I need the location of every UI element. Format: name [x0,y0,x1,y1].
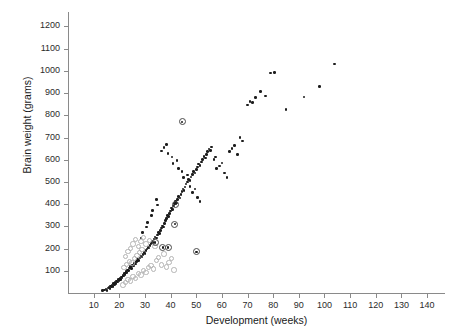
data-point-filled-dot [199,164,202,167]
data-point-filled-dot [172,162,175,165]
data-point-filled-dot [146,221,149,224]
data-point-filled-dot [167,152,170,155]
data-point-filled-dot [168,212,171,215]
data-point-filled-dot [269,72,272,75]
data-point-open-circle [125,249,130,254]
data-point-filled-dot [171,156,174,159]
data-point-filled-dot [164,219,167,222]
x-tick-mark [273,293,274,298]
y-tick-mark [64,271,69,272]
data-point-filled-dot [194,172,197,175]
x-axis-title: Development (weeks) [68,314,445,326]
data-point-filled-dot [259,90,262,93]
x-tick-mark [222,293,223,298]
y-tick-label-wrap: 100 [28,266,60,276]
data-point-filled-dot [200,161,203,164]
data-point-filled-dot [155,198,158,201]
y-axis-spine [68,12,69,294]
data-point-target-marker [152,239,159,246]
data-point-filled-dot [273,71,276,74]
x-axis-spine [68,293,445,294]
data-point-filled-dot [191,191,194,194]
data-point-filled-dot [127,269,130,272]
data-point-filled-dot [163,222,166,225]
data-point-filled-dot [130,267,133,270]
data-point-target-marker [179,118,186,125]
data-point-filled-dot [285,108,288,111]
data-point-filled-dot [156,204,159,207]
data-point-target-marker [171,221,178,228]
y-tick-mark [64,49,69,50]
data-point-target-marker [193,248,200,255]
data-point-filled-dot [158,232,161,235]
data-point-filled-dot [233,144,236,147]
x-tick-mark [324,293,325,298]
data-point-filled-dot [183,189,186,192]
data-point-filled-dot [162,226,165,229]
data-point-filled-dot [221,162,224,165]
data-point-filled-dot [184,186,187,189]
y-tick-label: 800 [30,110,60,119]
data-point-filled-dot [231,147,234,150]
data-point-open-circle [143,270,148,275]
x-tick-mark [119,293,120,298]
y-tick-label-wrap: 300 [28,221,60,231]
data-point-open-circle [151,266,156,271]
data-point-filled-dot [223,172,226,175]
data-point-open-circle [161,251,166,256]
y-tick-label: 1100 [30,44,60,53]
y-tick-label: 1000 [30,66,60,75]
data-point-open-circle [136,244,141,249]
data-point-filled-dot [189,179,192,182]
data-point-filled-dot [177,167,180,170]
data-point-filled-dot [141,231,144,234]
data-point-filled-dot [264,95,267,98]
x-tick-label: 140 [412,301,442,310]
data-point-filled-dot [106,289,109,292]
y-tick-mark [64,204,69,205]
data-point-filled-dot [182,176,185,179]
data-point-target-marker [172,201,179,208]
data-point-filled-dot [251,101,254,104]
data-point-open-circle [141,235,146,240]
y-tick-mark [64,115,69,116]
y-tick-label-wrap: 200 [28,244,60,254]
y-tick-label: 1200 [30,21,60,30]
y-tick-label: 900 [30,88,60,97]
x-tick-mark [145,293,146,298]
data-point-filled-dot [186,174,189,177]
data-point-filled-dot [137,259,140,262]
data-point-filled-dot [210,146,213,149]
data-point-open-circle [171,267,176,272]
data-point-filled-dot [150,214,153,217]
data-point-filled-dot [189,185,192,188]
data-point-filled-dot [145,226,148,229]
data-point-filled-dot [179,197,182,200]
data-point-filled-dot [254,96,257,99]
data-point-filled-dot [171,208,174,211]
data-point-filled-dot [303,96,306,99]
scatter-plot-figure: 100200300400500600700800900100011001200 … [0,0,455,334]
data-point-filled-dot [218,165,221,168]
x-tick-mark [94,293,95,298]
data-point-filled-dot [181,170,184,173]
y-tick-label: 200 [30,244,60,253]
y-tick-mark [64,226,69,227]
data-point-filled-dot [196,196,199,199]
data-point-filled-dot [239,136,242,139]
y-tick-label: 300 [30,221,60,230]
data-point-filled-dot [180,193,183,196]
data-point-filled-dot [151,209,154,212]
y-tick-mark [64,26,69,27]
data-point-filled-dot [226,176,229,179]
x-tick-mark [248,293,249,298]
y-tick-label: 100 [30,266,60,275]
data-point-filled-dot [246,104,249,107]
data-point-filled-dot [213,158,216,161]
data-point-filled-dot [167,215,170,218]
data-point-filled-dot [318,85,321,88]
data-point-filled-dot [144,252,147,255]
data-point-filled-dot [165,143,168,146]
x-tick-mark [171,293,172,298]
data-point-filled-dot [159,229,162,232]
